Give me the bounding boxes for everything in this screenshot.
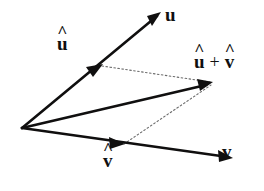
label-u-hat: u ^ (57, 34, 68, 53)
sum-left-accent: ^ (194, 41, 205, 58)
u-hat-glyph: u ^ (57, 34, 68, 53)
vector-u-hat-arrowhead (86, 64, 103, 77)
u-hat-accent: ^ (57, 23, 68, 40)
sum-right-glyph: v ^ (225, 52, 235, 71)
vector-v-group (22, 128, 233, 162)
u-base: u (165, 5, 176, 24)
vector-v-shaft (22, 128, 228, 157)
v-hat-accent: ^ (103, 140, 113, 157)
label-sum: u ^ + v ^ (194, 52, 234, 71)
v-hat-glyph: v ^ (103, 151, 113, 170)
label-v-hat: v ^ (103, 151, 113, 170)
sum-plus-operator: + (205, 53, 225, 71)
label-v: v (222, 142, 232, 161)
vector-addition-figure: u ^ u u ^ + v ^ v ^ v (0, 0, 264, 191)
v-glyph: v (222, 142, 232, 161)
v-base: v (222, 142, 232, 161)
sum-left-glyph: u ^ (194, 52, 205, 71)
vector-diagram-canvas (0, 0, 264, 191)
label-u: u (165, 5, 176, 24)
u-glyph: u (165, 5, 176, 24)
sum-right-accent: ^ (225, 41, 235, 58)
